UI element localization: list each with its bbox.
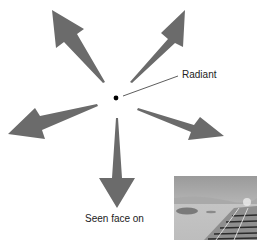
arrow-right-icon <box>137 108 224 140</box>
railway-photo <box>174 176 257 240</box>
arrow-upper-right-icon <box>130 10 185 83</box>
arrow-down-icon <box>99 118 135 208</box>
radiant-leader-line <box>123 76 178 96</box>
radiant-dot-icon <box>114 96 119 101</box>
arrow-upper-left-icon <box>52 10 105 83</box>
arrow-left-icon <box>8 104 98 139</box>
seen-face-on-label: Seen face on <box>85 213 144 224</box>
radiant-label: Radiant <box>182 69 216 80</box>
